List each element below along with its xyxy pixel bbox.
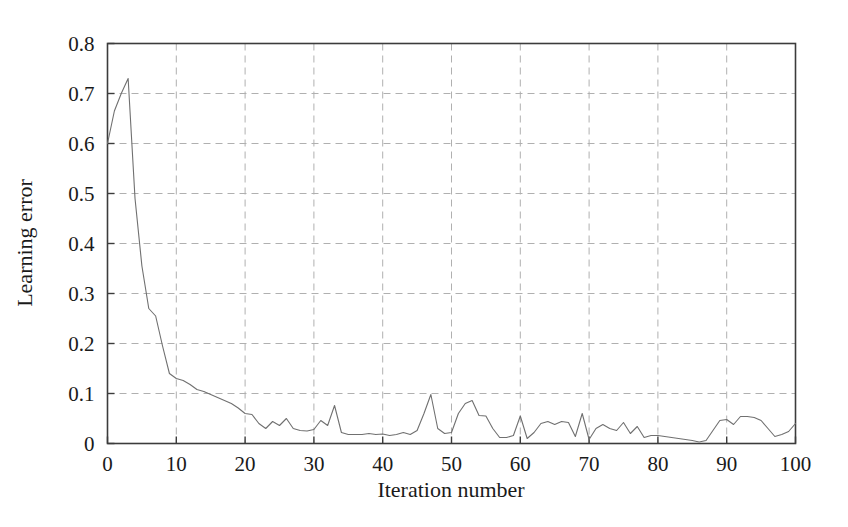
y-tick-label: 0.4: [68, 232, 95, 256]
x-tick-label: 0: [102, 452, 113, 476]
x-tick-label: 30: [303, 452, 324, 476]
x-tick-label: 100: [780, 452, 812, 476]
y-axis-title: Learning error: [12, 179, 37, 307]
y-tick-label: 0.1: [68, 382, 94, 406]
chart-figure: 0102030405060708090100 00.10.20.30.40.50…: [0, 0, 848, 527]
y-tick-label: 0.3: [68, 282, 94, 306]
x-tick-label: 70: [579, 452, 600, 476]
y-tick-label: 0.8: [68, 32, 94, 56]
y-tick-labels: 00.10.20.30.40.50.60.70.8: [68, 32, 95, 456]
y-tick-label: 0.2: [68, 332, 94, 356]
chart-background: [0, 0, 848, 527]
x-axis-title: Iteration number: [377, 477, 525, 502]
chart-svg: 0102030405060708090100 00.10.20.30.40.50…: [0, 0, 848, 527]
x-tick-label: 40: [372, 452, 393, 476]
x-tick-label: 90: [716, 452, 737, 476]
y-tick-label: 0.7: [68, 82, 94, 106]
x-tick-label: 20: [235, 452, 256, 476]
x-tick-label: 10: [166, 452, 187, 476]
y-tick-label: 0: [84, 432, 95, 456]
x-tick-label: 60: [510, 452, 531, 476]
y-tick-label: 0.5: [68, 182, 94, 206]
x-tick-label: 80: [647, 452, 668, 476]
x-tick-label: 50: [441, 452, 462, 476]
y-tick-label: 0.6: [68, 132, 94, 156]
